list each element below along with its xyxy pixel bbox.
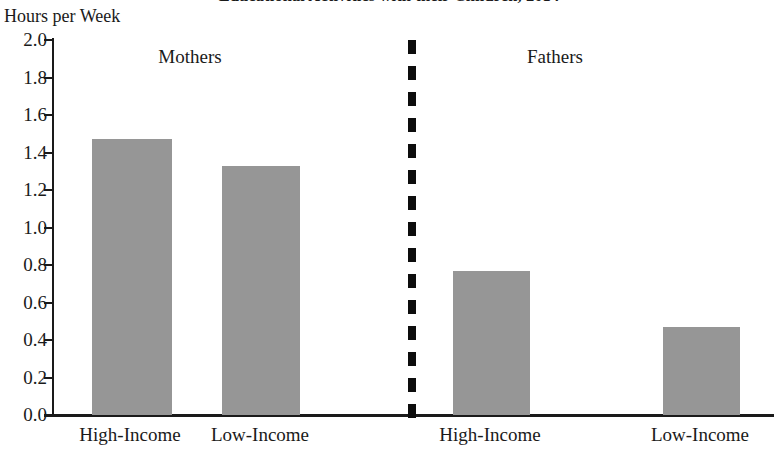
- bar: [453, 271, 530, 415]
- x-category-label: High-Income: [412, 424, 568, 446]
- x-category-label: Low-Income: [182, 424, 338, 446]
- y-tick-label: 0.8: [1, 255, 47, 274]
- y-tick-label: 1.8: [1, 68, 47, 87]
- bar: [222, 166, 300, 415]
- y-axis-line: [52, 38, 54, 417]
- y-axis-label: Hours per Week: [4, 6, 120, 27]
- y-tick-label: 1.6: [1, 105, 47, 124]
- group-label-fathers: Fathers: [455, 46, 655, 68]
- y-tick-label: 2.0: [1, 30, 47, 49]
- y-tick-label: 1.0: [1, 218, 47, 237]
- y-tick-label: 0.0: [1, 405, 47, 424]
- group-divider-icon: [408, 40, 416, 418]
- y-tick-label: 1.2: [1, 180, 47, 199]
- y-tick-label: 0.6: [1, 293, 47, 312]
- y-tick-label: 1.4: [1, 143, 47, 162]
- bar-chart: Educational Activities with their Childr…: [0, 0, 778, 459]
- y-tick-label: 0.2: [1, 368, 47, 387]
- bar: [92, 139, 172, 415]
- y-tick-label: 0.4: [1, 330, 47, 349]
- x-category-label: Low-Income: [622, 424, 778, 446]
- group-label-mothers: Mothers: [90, 46, 290, 68]
- bar: [663, 327, 740, 415]
